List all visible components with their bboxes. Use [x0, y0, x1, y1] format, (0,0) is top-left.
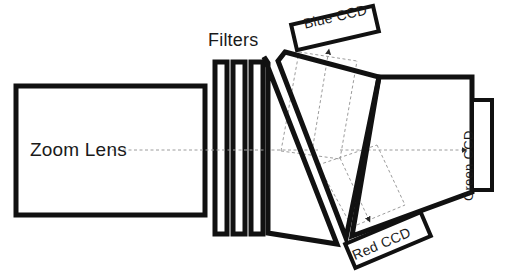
- filters-label: Filters: [208, 30, 258, 51]
- optical-diagram-canvas: Zoom Lens Filters Blue CCD Red CCD Green…: [0, 0, 506, 272]
- zoom-lens-label: Zoom Lens: [30, 139, 127, 161]
- green-ccd-label: Green CCD: [461, 130, 476, 201]
- filter-plate-1: [215, 62, 227, 234]
- filter-plate-3: [251, 62, 263, 234]
- filter-plate-2: [233, 62, 245, 234]
